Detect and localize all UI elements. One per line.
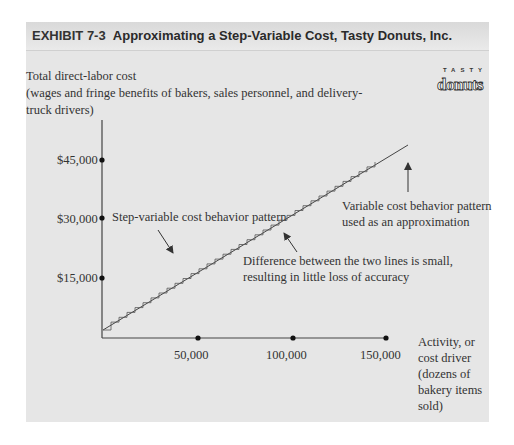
variable-cost-line bbox=[103, 145, 408, 330]
arrow-difference bbox=[284, 233, 297, 252]
x-tick-dot bbox=[195, 335, 200, 340]
x-tick-dot bbox=[290, 335, 295, 340]
arrow-step bbox=[158, 230, 173, 253]
y-tick-dot bbox=[99, 215, 104, 220]
y-tick-dot bbox=[99, 275, 104, 280]
y-tick-dot bbox=[99, 157, 104, 162]
chart-plot bbox=[0, 0, 514, 445]
x-tick-dot bbox=[383, 335, 388, 340]
